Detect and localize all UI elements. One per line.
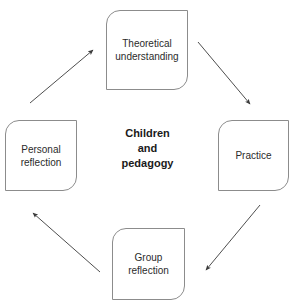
node-group-reflection[interactable]: Group reflection — [112, 228, 185, 300]
node-practice-label: Practice — [231, 149, 275, 162]
arrow-practice-to-group — [206, 205, 260, 270]
arrow-personal-to-theoretical — [30, 50, 93, 103]
cycle-diagram: Theoretical understanding Practice Group… — [0, 0, 295, 307]
diagram-center-title: Children and pedagogy — [98, 126, 197, 171]
node-personal-reflection[interactable]: Personal reflection — [5, 120, 77, 191]
node-group-reflection-label: Group reflection — [124, 251, 173, 277]
node-practice[interactable]: Practice — [218, 120, 289, 191]
arrow-theoretical-to-practice — [198, 42, 250, 104]
node-personal-reflection-label: Personal reflection — [17, 143, 66, 169]
arrow-group-to-personal — [33, 213, 100, 272]
node-theoretical-understanding[interactable]: Theoretical understanding — [106, 10, 188, 90]
node-theoretical-understanding-label: Theoretical understanding — [111, 37, 182, 63]
